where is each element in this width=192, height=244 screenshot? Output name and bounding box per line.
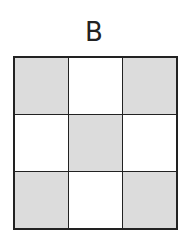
grid-cell-r2-c3 <box>123 115 176 172</box>
grid-cell-r1-c2 <box>69 58 123 115</box>
grid-cell-r1-c1 <box>15 58 69 115</box>
grid-cell-r1-c3 <box>123 58 176 115</box>
grid-cell-r3-c2 <box>69 172 123 228</box>
grid-cell-r3-c1 <box>15 172 69 228</box>
grid-cell-r3-c3 <box>123 172 176 228</box>
grid-cell-r2-c2 <box>69 115 123 172</box>
pattern-grid <box>13 56 178 230</box>
figure-label: B <box>0 17 188 47</box>
grid-cell-r2-c1 <box>15 115 69 172</box>
